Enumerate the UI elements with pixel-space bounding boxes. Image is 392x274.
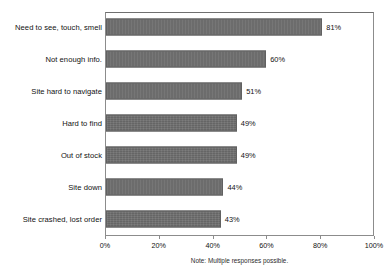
x-tick-label: 40% [193, 241, 233, 250]
bar-value-label: 51% [242, 87, 261, 96]
bar-value-label: 44% [223, 183, 242, 192]
table-row: Site hard to navigate 51% [0, 76, 392, 106]
bar-track: 44% [106, 179, 373, 196]
bar-track: 60% [106, 51, 373, 68]
horizontal-bar-chart: Need to see, touch, smell 81% Not enough… [0, 0, 392, 274]
x-tick-mark [374, 236, 375, 239]
table-row: Out of stock 49% [0, 140, 392, 170]
bar-value-label: 43% [221, 215, 240, 224]
bar-value-label: 49% [237, 151, 256, 160]
chart-footnote: Note: Multiple responses possible. [105, 257, 374, 265]
table-row: Need to see, touch, smell 81% [0, 12, 392, 42]
category-label: Need to see, touch, smell [0, 23, 102, 32]
category-label: Not enough info. [0, 55, 102, 64]
x-tick-mark [320, 236, 321, 239]
bar-series-6 [106, 211, 221, 228]
table-row: Site down 44% [0, 172, 392, 202]
bar-track: 43% [106, 211, 373, 228]
bar-series-4 [106, 147, 237, 164]
bar-value-label: 81% [322, 23, 341, 32]
bar-rows-container: Need to see, touch, smell 81% Not enough… [0, 12, 392, 236]
bar-track: 49% [106, 147, 373, 164]
table-row: Site crashed, lost order 43% [0, 204, 392, 234]
bar-series-2 [106, 83, 242, 100]
table-row: Hard to find 49% [0, 108, 392, 138]
table-row: Not enough info. 60% [0, 44, 392, 74]
category-label: Site crashed, lost order [0, 215, 102, 224]
x-tick-mark [213, 236, 214, 239]
bar-track: 81% [106, 19, 373, 36]
bar-track: 49% [106, 115, 373, 132]
category-label: Site down [0, 183, 102, 192]
x-tick-mark [105, 236, 106, 239]
x-tick-label: 100% [354, 241, 392, 250]
x-tick-label: 80% [300, 241, 340, 250]
x-tick-mark [159, 236, 160, 239]
bar-value-label: 49% [237, 119, 256, 128]
bar-track: 51% [106, 83, 373, 100]
x-tick-mark [266, 236, 267, 239]
x-axis: 0% 20% 40% 60% 80% 100% [0, 236, 392, 256]
category-label: Site hard to navigate [0, 87, 102, 96]
x-tick-label: 0% [85, 241, 125, 250]
bar-series-1 [106, 51, 266, 68]
category-label: Out of stock [0, 151, 102, 160]
bar-value-label: 60% [266, 55, 285, 64]
category-label: Hard to find [0, 119, 102, 128]
x-tick-label: 60% [246, 241, 286, 250]
x-tick-label: 20% [139, 241, 179, 250]
bar-series-5 [106, 179, 223, 196]
bar-series-0 [106, 19, 322, 36]
bar-series-3 [106, 115, 237, 132]
